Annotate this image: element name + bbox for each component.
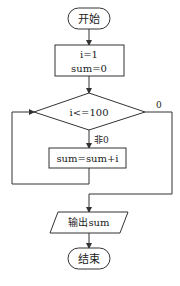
decision-label: i<=100 xyxy=(69,107,108,118)
init-line1: i=1 xyxy=(80,49,98,60)
init-process-box: i=1 sum=0 xyxy=(55,45,124,76)
init-line2: sum=0 xyxy=(71,63,107,74)
flowchart: 开始 i=1 sum=0 i<=100 非0 sum=sum+i 0 输出sum… xyxy=(0,0,180,286)
loop-body-label: sum=sum+i xyxy=(56,153,118,164)
start-label: 开始 xyxy=(78,12,100,26)
end-terminal: 结束 xyxy=(68,248,110,269)
output-label: 输出sum xyxy=(68,216,110,228)
loop-body-box: sum=sum+i xyxy=(49,148,126,168)
decision-diamond: i<=100 xyxy=(34,93,145,130)
output-parallelogram: 输出sum xyxy=(50,212,128,233)
end-label: 结束 xyxy=(78,253,100,266)
branch-true-label: 非0 xyxy=(94,134,109,145)
start-terminal: 开始 xyxy=(68,8,110,29)
branch-false-label: 0 xyxy=(156,100,162,110)
